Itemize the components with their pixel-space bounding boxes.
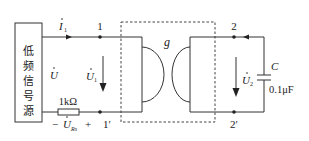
- phasor-dot-u2: [246, 72, 248, 74]
- source-char-2: 信: [23, 75, 34, 87]
- two-port-label: g: [164, 35, 170, 49]
- current-subscript: 1: [64, 27, 67, 33]
- resistor-voltage-subscript: Rs: [70, 126, 78, 132]
- current-arrow-icon: [66, 35, 72, 40]
- phasor-dot-u: [53, 67, 55, 69]
- source-char-0: 低: [23, 45, 34, 57]
- capacitor-value: 0.1μF: [269, 84, 294, 95]
- u2-subscript: 2: [250, 81, 253, 87]
- node-2-label: 2: [231, 20, 237, 32]
- phasor-dot-urs: [66, 116, 68, 118]
- node-2prime-label: 2′: [230, 118, 238, 130]
- resistor-minus-sign: −: [52, 118, 58, 130]
- node-1-dot: [98, 35, 102, 39]
- node-1-label: 1: [97, 20, 103, 32]
- u1-subscript: 1: [94, 77, 97, 83]
- resistor-value: 1kΩ: [59, 96, 78, 107]
- source-voltage-label: U: [50, 69, 59, 81]
- capacitor-name: C: [271, 60, 279, 72]
- node-2prime-dot: [232, 110, 236, 114]
- source-char-4: 源: [23, 104, 34, 117]
- source-char-1: 频: [23, 59, 34, 72]
- node-1prime-dot: [98, 110, 102, 114]
- right-coupling-arc: [172, 47, 190, 102]
- circuit-diagram: 低 频 信 号 源 U I 1 1 1′ U 1 1kΩ − U Rs + g …: [0, 0, 309, 141]
- resistor-rs: [58, 109, 79, 115]
- node-1prime-label: 1′: [103, 118, 111, 130]
- u1-arrow-head-icon: [100, 83, 107, 92]
- current2-arrow-icon: [243, 35, 249, 40]
- phasor-dot-i1: [61, 18, 63, 20]
- u2-arrow-head-icon: [233, 88, 240, 97]
- source-char-3: 号: [23, 90, 34, 102]
- resistor-plus-sign: +: [85, 118, 91, 130]
- node-2-dot: [232, 35, 236, 39]
- phasor-dot-u1: [90, 68, 92, 70]
- left-coupling-arc: [142, 47, 164, 102]
